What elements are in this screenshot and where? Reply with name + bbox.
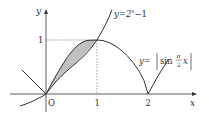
x-axis-arrow-icon [192, 92, 197, 96]
abs-sine-label-var: x [183, 56, 188, 66]
abs-sine-label-den: 2 [177, 61, 181, 68]
y-tick-1: 1 [38, 35, 43, 45]
exponential-label: y=2x−1 [113, 8, 147, 19]
x-axis-label: x [190, 98, 195, 108]
abs-sine-label-fn: sin [160, 56, 173, 66]
abs-sine-label-lhs: y= [138, 56, 151, 66]
origin-label: O [48, 98, 55, 108]
x-tick-1: 1 [95, 98, 100, 108]
exponential-label-rhs: −1 [134, 9, 147, 19]
abs-sine-label: y= sin π 2 x [138, 52, 191, 70]
y-axis-label: y [35, 6, 42, 16]
exponential-curve [20, 10, 112, 106]
x-tick-2: 2 [146, 98, 151, 108]
y-axis-arrow-icon [44, 9, 48, 14]
abs-sine-curve [22, 40, 168, 94]
graph-diagram: y x O 1 2 1 y=2x−1 y= sin π 2 x [0, 0, 209, 119]
abs-sine-label-num: π [176, 52, 182, 59]
exponential-label-lhs: y=2 [113, 9, 131, 19]
